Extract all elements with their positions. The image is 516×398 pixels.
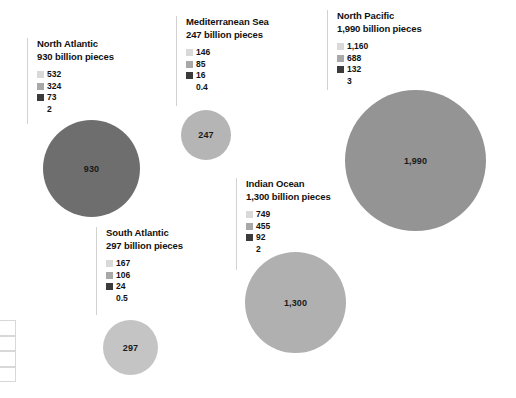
legend-swatch-3 [337, 66, 344, 73]
legend-value: 73 [47, 92, 56, 103]
legend-item: 132 [337, 64, 422, 75]
legend-swatch-1 [246, 211, 253, 218]
bubble-chart-canvas: North Atlantic 930 billion pieces 532 32… [0, 0, 516, 398]
legend-swatch-3 [106, 283, 113, 290]
legend-swatch-1 [186, 49, 193, 56]
region-title: Mediterranean Sea [186, 16, 269, 29]
legend-item: 1,160 [337, 41, 422, 52]
region-panel-mediterranean-sea: Mediterranean Sea 247 billion pieces 146… [176, 16, 269, 106]
bubble-label: 297 [123, 343, 138, 353]
legend-item: 0.5 [106, 293, 183, 304]
legend-swatch-2 [37, 83, 44, 90]
legend-item: 455 [246, 221, 331, 232]
legend-item: 16 [186, 70, 269, 81]
legend-swatch-1 [106, 260, 113, 267]
legend-swatch-3 [246, 234, 253, 241]
legend-swatch-1 [37, 71, 44, 78]
legend-item: 2 [37, 104, 114, 115]
legend-value: 2 [47, 104, 52, 115]
legend-item: 167 [106, 258, 183, 269]
legend-item: 106 [106, 270, 183, 281]
legend-swatch-4 [106, 295, 113, 302]
legend-item: 146 [186, 47, 269, 58]
region-panel-south-atlantic: South Atlantic 297 billion pieces 167 10… [96, 227, 183, 315]
corner-grid-cell [0, 336, 16, 352]
legend-south-atlantic: 167 106 24 0.5 [106, 258, 183, 304]
legend-north-atlantic: 532 324 73 2 [37, 69, 114, 115]
region-total: 297 billion pieces [106, 240, 183, 253]
bubble-label: 1,990 [404, 156, 427, 166]
region-title: Indian Ocean [246, 178, 331, 191]
legend-item: 24 [106, 281, 183, 292]
legend-swatch-2 [106, 272, 113, 279]
legend-item: 92 [246, 232, 331, 243]
corner-grid-cell [0, 367, 16, 383]
corner-grid-cell [0, 351, 16, 367]
legend-indian-ocean: 749 455 92 2 [246, 209, 331, 255]
legend-value: 688 [347, 53, 361, 64]
region-panel-north-pacific: North Pacific 1,990 billion pieces 1,160… [327, 10, 422, 90]
legend-value: 749 [256, 209, 270, 220]
legend-value: 0.5 [116, 293, 128, 304]
legend-swatch-4 [186, 84, 193, 91]
legend-value: 132 [347, 64, 361, 75]
legend-value: 85 [196, 59, 205, 70]
legend-swatch-2 [337, 55, 344, 62]
legend-mediterranean-sea: 146 85 16 0.4 [186, 47, 269, 93]
legend-value: 167 [116, 258, 130, 269]
region-panel-north-atlantic: North Atlantic 930 billion pieces 532 32… [27, 38, 114, 124]
bubble-indian-ocean: 1,300 [245, 252, 346, 353]
region-total: 930 billion pieces [37, 51, 114, 64]
legend-item: 3 [337, 76, 422, 87]
legend-value: 146 [196, 47, 210, 58]
region-total: 1,990 billion pieces [337, 23, 422, 36]
legend-swatch-4 [246, 246, 253, 253]
legend-item: 688 [337, 53, 422, 64]
legend-value: 24 [116, 281, 125, 292]
legend-value: 106 [116, 270, 130, 281]
legend-value: 455 [256, 221, 270, 232]
legend-item: 532 [37, 69, 114, 80]
legend-swatch-4 [337, 78, 344, 85]
legend-north-pacific: 1,160 688 132 3 [337, 41, 422, 87]
legend-swatch-2 [186, 61, 193, 68]
legend-swatch-3 [186, 72, 193, 79]
legend-swatch-4 [37, 106, 44, 113]
region-total: 1,300 billion pieces [246, 191, 331, 204]
legend-swatch-2 [246, 223, 253, 230]
legend-item: 324 [37, 81, 114, 92]
bubble-label: 1,300 [284, 298, 307, 308]
legend-value: 92 [256, 232, 265, 243]
legend-item: 749 [246, 209, 331, 220]
bubble-north-pacific: 1,990 [345, 90, 486, 231]
bubble-label: 930 [84, 164, 99, 174]
legend-value: 2 [256, 244, 261, 255]
region-total: 247 billion pieces [186, 29, 269, 42]
region-title: North Atlantic [37, 38, 114, 51]
region-title: South Atlantic [106, 227, 183, 240]
legend-value: 3 [347, 76, 352, 87]
legend-swatch-1 [337, 43, 344, 50]
legend-value: 324 [47, 81, 61, 92]
bubble-north-atlantic: 930 [43, 120, 140, 217]
bubble-mediterranean-sea: 247 [181, 110, 231, 160]
legend-item: 85 [186, 59, 269, 70]
region-title: North Pacific [337, 10, 422, 23]
bubble-label: 247 [198, 130, 213, 140]
legend-item: 73 [37, 92, 114, 103]
legend-value: 532 [47, 69, 61, 80]
corner-grid-cell [0, 320, 16, 336]
legend-swatch-3 [37, 94, 44, 101]
legend-value: 16 [196, 70, 205, 81]
corner-grid [0, 320, 16, 382]
legend-value: 1,160 [347, 41, 368, 52]
bubble-south-atlantic: 297 [103, 320, 158, 375]
legend-value: 0.4 [196, 82, 208, 93]
legend-item: 0.4 [186, 82, 269, 93]
